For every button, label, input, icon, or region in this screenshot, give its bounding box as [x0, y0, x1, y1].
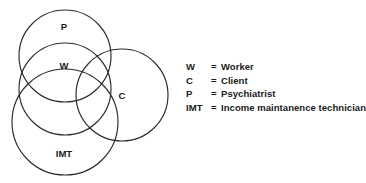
venn-diagram-svg: P W C IMT	[0, 0, 185, 183]
venn-label-w: W	[60, 60, 69, 71]
legend-equals-sign: =	[211, 75, 221, 86]
legend-row: C = Client	[186, 75, 361, 89]
venn-circle-imt	[12, 69, 118, 175]
venn-label-c: C	[119, 90, 126, 101]
legend-key: IMT	[186, 102, 211, 113]
legend-value: Worker	[221, 61, 254, 72]
legend-row: W = Worker	[186, 61, 361, 75]
legend: W = Worker C = Client P = Psychiatrist I…	[186, 61, 361, 115]
legend-row: P = Psychiatrist	[186, 88, 361, 102]
legend-key: C	[186, 75, 211, 86]
legend-value: Psychiatrist	[221, 88, 275, 99]
legend-value: Income maintanence technician	[221, 102, 366, 113]
venn-label-p: P	[61, 21, 68, 32]
venn-diagram: P W C IMT	[0, 0, 185, 183]
legend-key: P	[186, 88, 211, 99]
legend-equals-sign: =	[211, 61, 221, 72]
venn-label-imt: IMT	[56, 148, 73, 159]
legend-value: Client	[221, 75, 248, 86]
legend-row: IMT = Income maintanence technician	[186, 102, 361, 116]
legend-equals-sign: =	[211, 102, 221, 113]
legend-key: W	[186, 61, 211, 72]
legend-equals-sign: =	[211, 88, 221, 99]
